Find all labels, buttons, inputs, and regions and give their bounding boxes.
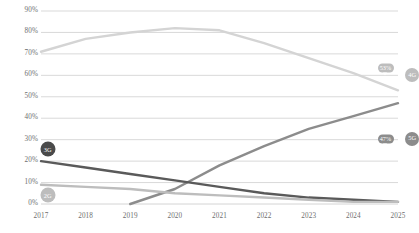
x-tick-label: 2024: [346, 213, 361, 220]
x-tick-label: 2023: [301, 213, 316, 220]
x-tick-label: 2018: [78, 213, 93, 220]
value-callout-53: 53%: [378, 63, 394, 72]
x-tick-label: 2020: [167, 213, 182, 220]
x-tick-label: 2017: [34, 213, 49, 220]
series-badge-4g: 4G: [405, 68, 419, 82]
value-callout-47: 47%: [378, 134, 394, 143]
series-badge-5g: 5G: [405, 132, 419, 146]
x-tick-label: 2022: [257, 213, 272, 220]
x-tick-label: 2019: [123, 213, 138, 220]
x-tick-label: 2021: [212, 213, 227, 220]
series-badge-3g: 3G: [40, 142, 55, 157]
x-tick-label: 2025: [391, 213, 406, 220]
series-badge-2g: 2G: [40, 188, 55, 203]
